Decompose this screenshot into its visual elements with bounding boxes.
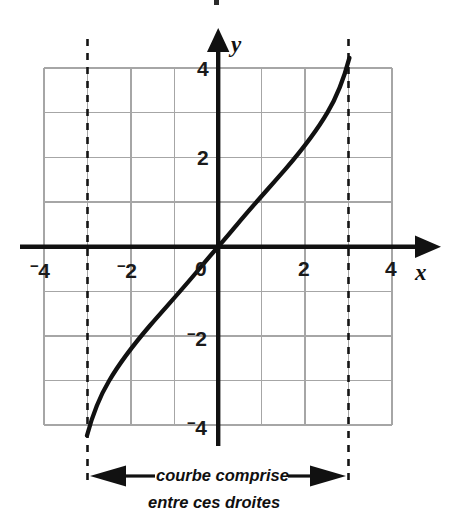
- x-tick-label-neg4: −4: [30, 258, 50, 281]
- x-tick-label-zero: 0: [195, 258, 207, 279]
- y-tick-label-neg4: −4: [187, 415, 207, 438]
- caption-line-1: courbe comprise: [156, 467, 289, 484]
- y-tick-label-pos2: 2: [197, 147, 209, 168]
- x-axis-arrowhead: [415, 236, 441, 259]
- x-axis: [20, 236, 441, 259]
- x-tick-label-pos2: 2: [298, 258, 310, 279]
- y-axis-label: y: [231, 33, 241, 56]
- span-arrow-left-head: [90, 466, 126, 487]
- x-tick-label-pos4: 4: [385, 258, 397, 279]
- span-arrow-right-head: [310, 466, 346, 487]
- scan-artifact-mark: [214, 0, 219, 5]
- y-tick-label-neg2: −2: [187, 326, 207, 349]
- x-axis-label: x: [415, 261, 427, 284]
- graph-figure: −4 −2 0 2 4 4 2 −2 −4 x y courbe compris…: [0, 0, 451, 528]
- y-axis-arrowhead: [207, 28, 229, 52]
- caption-line-2: entre ces droites: [148, 494, 280, 511]
- y-tick-label-pos4: 4: [197, 58, 209, 79]
- coordinate-plane-svg: [0, 0, 451, 528]
- x-tick-label-neg2: −2: [117, 258, 137, 281]
